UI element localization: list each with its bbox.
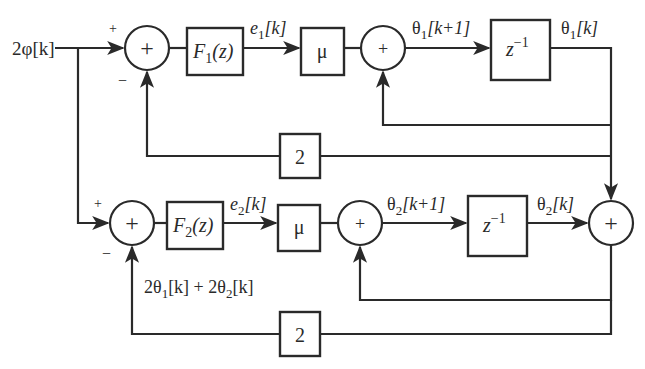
delay-z-inverse-block (468, 196, 527, 256)
input-to-lower-sum-wire (78, 48, 108, 223)
error-e2-label: e2[k] (230, 194, 267, 218)
input-signal: 2φ[k] (12, 38, 55, 59)
next-state-theta2-label: θ2[k+1] (387, 194, 445, 218)
upper-sum1-minus-sign: − (118, 72, 127, 89)
state-theta1-label: θ1[k] (561, 18, 598, 42)
input-label: 2φ[k] (12, 38, 55, 59)
error-e1-label: e1[k] (250, 18, 287, 42)
theta1-to-output-sum-wire (550, 48, 611, 199)
lower-sum1-minus-sign: − (102, 245, 111, 262)
delay-z-inverse-block (491, 20, 550, 80)
block-diagram: 2φ[k] + − + F1(z) e1[k] μ + θ1[k+1] z−1 … (0, 0, 645, 369)
next-state-theta1-label: θ1[k+1] (412, 18, 470, 42)
gain-mu-label: μ (317, 40, 328, 63)
plus-icon: + (355, 214, 365, 234)
feedback-gain-2-label: 2 (295, 324, 305, 346)
state-theta2-label: θ2[k] (537, 194, 574, 218)
feedback-signal-label: 2θ1[k] + 2θ2[k] (144, 277, 253, 301)
upper-branch: + − + F1(z) e1[k] μ + θ1[k+1] z−1 θ1[k] … (109, 18, 611, 199)
gain-mu-label: μ (294, 216, 305, 239)
upper-sum1-plus-sign: + (109, 21, 117, 36)
feedback-gain-2-label: 2 (295, 146, 305, 168)
plus-icon: + (125, 210, 139, 236)
plus-icon: + (604, 210, 618, 236)
lower-sum1-plus-sign: + (94, 196, 102, 211)
plus-icon: + (378, 39, 388, 59)
gain2-to-sum1-wire (147, 72, 280, 156)
plus-icon: + (140, 35, 154, 61)
lower-branch: + − + F2(z) e2[k] μ + θ2[k+1] z−1 θ2[k] … (94, 194, 633, 356)
output-to-gain2-wire (320, 300, 611, 334)
